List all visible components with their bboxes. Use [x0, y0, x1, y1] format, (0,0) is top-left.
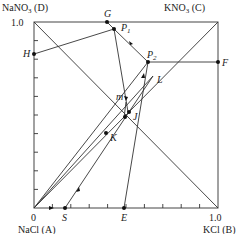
point-G	[105, 20, 109, 24]
point-S	[63, 206, 67, 210]
corner-label-C: KNO3 (C)	[164, 2, 205, 15]
phase-diagram: NaNO3 (D) 1.0 KNO3 (C) 0 NaCl (A) 1.0 KC…	[0, 0, 237, 234]
point-E	[122, 206, 126, 210]
label-G: G	[104, 8, 111, 19]
arrow-icon	[141, 73, 145, 78]
corner-label-D: NaNO3 (D)	[2, 2, 48, 15]
arrow-icon	[49, 206, 54, 210]
point-K	[104, 131, 108, 135]
point-J2	[123, 115, 127, 119]
label-J: J	[133, 111, 138, 122]
line-H-P1	[34, 29, 114, 54]
label-m: m	[116, 91, 123, 102]
label-F: F	[221, 57, 229, 68]
label-L: L	[156, 74, 163, 85]
label-P1: P1	[120, 22, 131, 35]
label-K: K	[109, 132, 118, 143]
axis-label-B-value: 1.0	[209, 212, 222, 223]
corner-label-B: KCl (B)	[203, 224, 236, 234]
axis-label-D-value: 1.0	[11, 17, 24, 28]
left-axis-ticks	[34, 41, 38, 190]
axis-label-A-value: 0	[31, 212, 36, 223]
point-F	[216, 60, 220, 64]
bottom-axis-ticks	[52, 204, 199, 208]
corner-label-A: NaCl (A)	[18, 224, 56, 234]
line-S-L	[65, 76, 153, 208]
point-H	[32, 52, 36, 56]
label-S: S	[62, 212, 67, 223]
point-P2	[146, 60, 150, 64]
line-A-P2	[34, 62, 148, 208]
label-H: H	[22, 48, 31, 59]
line-P2-E	[124, 62, 148, 208]
point-P1	[112, 27, 116, 31]
arrow-icon	[124, 96, 128, 101]
point-J	[127, 110, 131, 114]
label-E: E	[120, 212, 127, 223]
